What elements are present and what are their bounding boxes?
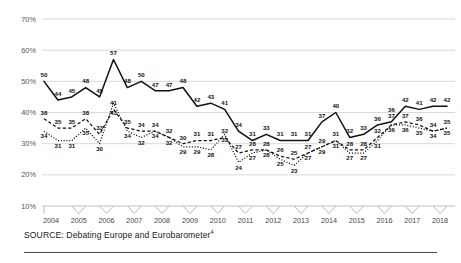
- data-point-label: 28: [263, 140, 270, 147]
- data-point-label: 35: [68, 118, 75, 125]
- x-tick-bracket: [322, 206, 336, 214]
- y-axis-tick-label: 10%: [21, 202, 36, 211]
- data-point-label: 25: [277, 160, 284, 167]
- data-point-label: 27: [235, 143, 242, 150]
- x-tick-bracket: [100, 206, 114, 214]
- data-point-label: 40: [332, 102, 339, 109]
- data-point-label: 36: [416, 115, 423, 122]
- data-point-label: 43: [110, 109, 117, 116]
- data-point-label: 34: [235, 121, 242, 128]
- data-point-label: 32: [166, 139, 173, 146]
- data-point-labels: 5044454845574850474748424341343133313131…: [41, 49, 451, 173]
- x-tick-bracket: [294, 206, 308, 214]
- line-chart: 10%20%30%40%50%60%70% 200420052006200720…: [0, 0, 461, 263]
- data-point-label: 34: [138, 121, 145, 128]
- data-point-label: 27: [305, 143, 312, 150]
- data-point-label: 57: [110, 49, 117, 56]
- data-point-label: 30: [96, 145, 103, 152]
- data-point-label: 50: [138, 71, 145, 78]
- x-tick-bracket: [183, 206, 197, 214]
- x-tick-bracket: [127, 206, 141, 214]
- x-axis-tick-label: 2009: [182, 216, 198, 225]
- data-point-label: 42: [430, 96, 437, 103]
- data-point-label: 41: [221, 99, 228, 106]
- data-point-label: 34: [430, 132, 437, 139]
- source-footnote-marker: 4: [211, 229, 214, 235]
- data-point-label: 36: [388, 106, 395, 113]
- x-tick-bracket: [433, 206, 447, 214]
- data-point-label: 47: [152, 81, 159, 88]
- data-point-label: 31: [277, 130, 284, 137]
- x-tick-bracket: [211, 206, 225, 214]
- data-point-label: 31: [194, 130, 201, 137]
- x-axis-tick-brackets: [42, 206, 455, 214]
- data-point-label: 29: [180, 148, 187, 155]
- chart-figure: 10%20%30%40%50%60%70% 200420052006200720…: [0, 0, 461, 263]
- x-tick-bracket: [239, 206, 253, 214]
- data-point-label: 31: [332, 142, 339, 149]
- data-point-label: 41: [110, 99, 117, 106]
- data-point-label: 31: [207, 130, 214, 137]
- x-axis-labels: 2004200520062007200820092010201120122013…: [43, 216, 448, 225]
- data-point-label: 32: [221, 127, 228, 134]
- data-point-label: 34: [430, 121, 437, 128]
- x-axis-tick-label: 2006: [99, 216, 115, 225]
- data-point-label: 45: [96, 87, 103, 94]
- data-point-label: 24: [235, 164, 242, 171]
- data-point-label: 38: [82, 109, 89, 116]
- bottom-divider: [24, 252, 437, 253]
- data-point-label: 37: [319, 112, 326, 119]
- source-note: SOURCE: Debating Europe and Eurobaromete…: [24, 229, 214, 240]
- y-axis-tick-label: 40%: [21, 108, 36, 117]
- x-axis-tick-label: 2011: [238, 216, 253, 225]
- data-point-label: 28: [346, 140, 353, 147]
- x-axis-tick-label: 2004: [43, 216, 59, 225]
- data-point-label: 36: [388, 126, 395, 133]
- data-point-label: 35: [55, 118, 62, 125]
- x-axis-tick-label: 2007: [126, 216, 142, 225]
- data-point-label: 31: [291, 130, 298, 137]
- data-point-label: 42: [194, 96, 201, 103]
- data-point-label: 29: [319, 148, 326, 155]
- y-axis-tick-label: 20%: [21, 170, 36, 179]
- x-axis-tick-label: 2016: [377, 216, 393, 225]
- x-tick-bracket: [378, 206, 392, 214]
- data-point-label: 35: [444, 118, 451, 125]
- x-axis-tick-label: 2008: [154, 216, 170, 225]
- y-axis-tick-label: 50%: [21, 77, 36, 86]
- data-point-label: 35: [444, 129, 451, 136]
- data-point-label: 27: [346, 154, 353, 161]
- series-line-dashed: [44, 109, 447, 159]
- x-axis-tick-label: 2015: [349, 216, 365, 225]
- x-axis-tick-label: 2014: [321, 216, 337, 225]
- data-point-label: 42: [402, 96, 409, 103]
- y-axis-tick-label: 70%: [21, 15, 36, 24]
- data-point-label: 33: [221, 136, 228, 143]
- x-tick-bracket: [405, 206, 419, 214]
- x-axis-tick-label: 2013: [293, 216, 309, 225]
- data-point-label: 50: [41, 71, 48, 78]
- data-point-label: 44: [55, 90, 62, 97]
- data-point-label: 33: [263, 124, 270, 131]
- data-point-label: 31: [374, 142, 381, 149]
- data-point-label: 37: [402, 112, 409, 119]
- y-axis-labels: 10%20%30%40%50%60%70%: [21, 15, 36, 211]
- data-point-label: 31: [305, 130, 312, 137]
- x-axis-tick-label: 2012: [265, 216, 281, 225]
- data-point-label: 27: [305, 154, 312, 161]
- data-point-label: 34: [41, 132, 48, 139]
- data-point-label: 34: [152, 132, 159, 139]
- data-point-label: 35: [416, 129, 423, 136]
- data-point-label: 32: [374, 127, 381, 134]
- data-point-label: 27: [360, 154, 367, 161]
- x-axis-tick-label: 2010: [210, 216, 226, 225]
- data-point-label: 29: [194, 148, 201, 155]
- data-point-label: 36: [402, 126, 409, 133]
- data-point-label: 37: [388, 112, 395, 119]
- data-point-label: 42: [444, 96, 451, 103]
- data-point-label: 48: [124, 77, 131, 84]
- y-axis-tick-label: 60%: [21, 46, 36, 55]
- data-point-label: 28: [249, 140, 256, 147]
- data-point-label: 27: [249, 154, 256, 161]
- data-point-label: 48: [82, 77, 89, 84]
